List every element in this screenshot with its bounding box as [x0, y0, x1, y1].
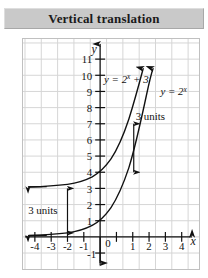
y-tick-label: 2: [87, 199, 92, 211]
x-tick-label: 2: [146, 240, 151, 252]
y-tick-label-negative-one: -1: [87, 248, 96, 260]
x-tick-label: -1: [79, 240, 88, 252]
coordinate-plane-svg: 11 10 9 8 7 6 5 4 3 2 1 -1 -4 -3 -2 -1 0…: [23, 39, 199, 269]
y-tick-label: 7: [87, 118, 93, 130]
curve-label-exp-plus-three: y = 2x + 3: [103, 72, 149, 84]
curve-label-base: y = 2: [103, 73, 128, 85]
figure-title-bar: Vertical translation: [4, 8, 204, 29]
y-tick-label: 3: [87, 183, 93, 195]
y-tick-label: 6: [87, 134, 93, 146]
graph-plot-area: 11 10 9 8 7 6 5 4 3 2 1 -1 -4 -3 -2 -1 0…: [22, 38, 200, 270]
curve-label-exp: y = 2x: [159, 85, 187, 97]
vertical-translation-figure: Vertical translation: [0, 0, 208, 278]
y-axis-variable-label: y: [91, 42, 98, 56]
origin-label: 0: [105, 237, 111, 249]
y-tick-label: 8: [87, 102, 93, 114]
y-tick-label: 9: [87, 86, 92, 98]
page-title: Vertical translation: [48, 11, 159, 27]
y-tick-label: 5: [87, 150, 93, 162]
right-shift-annotation-label: 3 units: [136, 110, 165, 122]
left-shift-annotation: 3 units: [28, 188, 67, 233]
y-tick-label: 10: [81, 70, 92, 82]
x-tick-label: 4: [179, 240, 185, 252]
left-shift-annotation-label: 3 units: [28, 204, 57, 216]
right-shift-annotation: 3 units: [134, 110, 165, 172]
x-axis-variable-label: x: [189, 234, 196, 248]
curve-label-base: y = 2: [159, 85, 184, 97]
x-tick-labels: -4 -3 -2 -1 0 1 2 3 4: [30, 237, 185, 252]
x-tick-label: -2: [63, 240, 72, 252]
svg-text:y = 2x: y = 2x: [159, 85, 187, 97]
x-tick-label: 3: [163, 240, 169, 252]
curve-label-suffix: + 3: [130, 73, 149, 85]
x-tick-label: 1: [130, 240, 135, 252]
curve-label-exponent: x: [182, 85, 187, 94]
x-tick-label: -4: [30, 240, 40, 252]
x-tick-label: -3: [47, 240, 57, 252]
svg-text:y = 2x + 3: y = 2x + 3: [103, 72, 149, 84]
